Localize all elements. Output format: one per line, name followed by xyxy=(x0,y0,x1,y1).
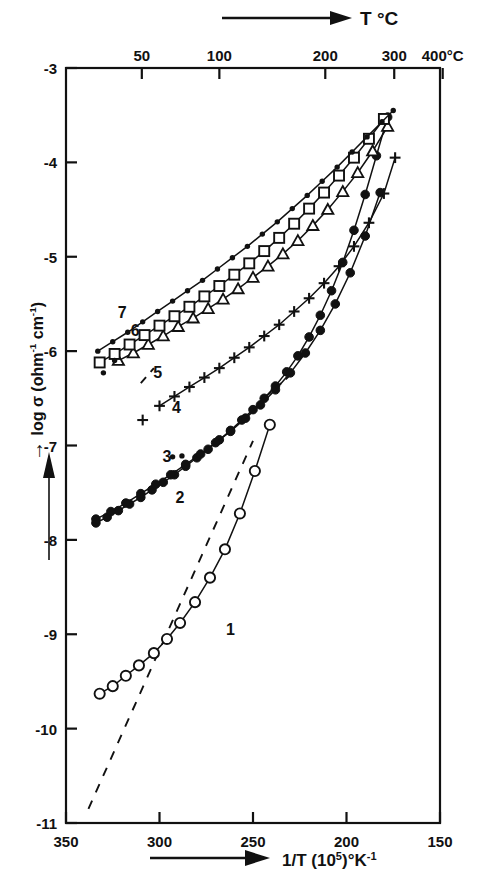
series-6-point xyxy=(199,291,209,301)
series-6-point xyxy=(110,349,120,359)
x-tick-label-250: 250 xyxy=(240,833,265,850)
series-3-point xyxy=(122,499,131,508)
series-5-point xyxy=(232,283,243,293)
series-7-point xyxy=(275,219,280,224)
series-4-line xyxy=(160,158,396,406)
series-6-line xyxy=(100,119,384,362)
stray-point-1 xyxy=(112,358,117,363)
series-3-point xyxy=(151,480,160,489)
top-tick-label-400: 400°C xyxy=(422,47,464,64)
conductivity-arrhenius-plot: T °C50100200300400°C-3-4-5-6-7-8-9-10-11… xyxy=(0,0,479,887)
series-6-point xyxy=(304,204,314,214)
series-1-point xyxy=(134,660,144,670)
top-tick-label-300: 300 xyxy=(382,47,407,64)
series-1-point xyxy=(121,671,131,681)
series-3-point xyxy=(271,386,280,395)
series-7-point xyxy=(110,339,115,344)
series-6-point xyxy=(140,330,150,340)
series-3-point xyxy=(107,507,116,516)
series-1-point xyxy=(162,634,172,644)
series-6-point xyxy=(125,340,135,350)
series-3-point xyxy=(256,401,265,410)
series-7-point xyxy=(185,288,190,293)
top-tick-label-100: 100 xyxy=(207,47,232,64)
series-1-point xyxy=(250,466,260,476)
y-axis-title-text: log σ (ohm-1 cm-1) xyxy=(29,302,46,435)
series-6-point xyxy=(229,270,239,280)
curve-2-dashed-segment xyxy=(266,372,294,397)
series-3-point xyxy=(92,515,101,524)
x-tick-label-200: 200 xyxy=(334,833,359,850)
series-2-point xyxy=(316,311,325,320)
series-1-point xyxy=(149,648,159,658)
series-3-point xyxy=(241,414,250,423)
curve-label-5: 5 xyxy=(153,364,162,381)
series-7-line xyxy=(98,110,393,351)
series-5-point xyxy=(367,145,378,155)
series-7-point xyxy=(260,231,265,236)
series-7-point xyxy=(95,348,100,353)
series-5-point xyxy=(247,272,258,282)
series-3-point xyxy=(166,470,175,479)
series-3-point xyxy=(331,300,340,309)
plot-frame xyxy=(66,68,440,823)
y-tick-label--11: -11 xyxy=(36,815,57,832)
series-7-point xyxy=(155,309,160,314)
series-3-point xyxy=(181,460,190,469)
curve-label-3: 3 xyxy=(163,448,172,465)
series-1-point xyxy=(190,597,200,607)
series-5-point xyxy=(203,303,214,313)
series-6-point xyxy=(244,258,254,268)
series-1-point xyxy=(265,420,275,430)
series-3-point xyxy=(211,438,220,447)
series-5-point xyxy=(188,312,199,322)
stray-point-4 xyxy=(179,453,184,458)
series-6-point xyxy=(184,302,194,312)
series-6-point xyxy=(155,321,165,331)
series-7-point xyxy=(334,164,339,169)
series-3-point xyxy=(226,427,235,436)
series-6-point xyxy=(259,246,269,256)
y-axis-title: → log σ (ohm-1 cm-1) xyxy=(25,282,48,482)
stray-point-0 xyxy=(101,370,106,375)
x-tick-label-300: 300 xyxy=(147,833,172,850)
x-tick-label-350: 350 xyxy=(53,833,78,850)
stray-point-2 xyxy=(137,415,148,426)
series-7-point xyxy=(290,206,295,211)
series-7-point xyxy=(364,134,369,139)
series-5-point xyxy=(217,294,228,304)
series-4-point xyxy=(229,352,240,363)
series-7-point xyxy=(200,278,205,283)
series-6-point xyxy=(274,233,284,243)
series-1-point xyxy=(175,618,185,628)
series-7-point xyxy=(215,266,220,271)
y-tick-label--3: -3 xyxy=(44,60,57,77)
top-axis-title: T °C xyxy=(360,8,398,29)
series-1 xyxy=(88,420,274,809)
series-6-point xyxy=(169,311,179,321)
series-1-point xyxy=(235,508,245,518)
series-5-point xyxy=(173,321,184,331)
series-1-point xyxy=(95,689,105,699)
x-tick-label-150: 150 xyxy=(427,833,452,850)
series-4-point xyxy=(390,152,401,163)
y-tick-label--9: -9 xyxy=(44,626,57,643)
y-tick-label--4: -4 xyxy=(44,154,58,171)
x-axis-title: 1/T (105)°K-1 xyxy=(282,850,377,870)
top-tick-label-200: 200 xyxy=(313,47,338,64)
series-7-point xyxy=(170,298,175,303)
x-axis-arrowhead xyxy=(245,850,270,866)
y-tick-label--5: -5 xyxy=(44,249,57,266)
series-4-point xyxy=(184,382,195,393)
series-1-point xyxy=(220,544,230,554)
series-6-point xyxy=(95,357,105,367)
series-2-point xyxy=(361,190,370,199)
series-3-point xyxy=(137,489,146,498)
series-6-point xyxy=(214,281,224,291)
series-5-point xyxy=(158,330,169,340)
series-2-point xyxy=(350,226,359,235)
series-4-point xyxy=(199,372,210,383)
y-axis-arrow: → xyxy=(25,435,47,461)
series-7-point xyxy=(379,119,384,124)
series-3-point xyxy=(196,450,205,459)
